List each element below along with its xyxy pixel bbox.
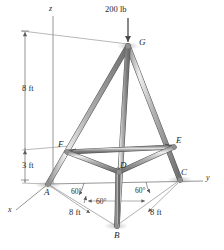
dimension-label-base-right: 8 ft [150, 208, 162, 217]
y-axis-label: y [206, 174, 210, 182]
load-label: 200 lb [105, 5, 127, 14]
dimension-label-height-upper: 8 ft [22, 84, 34, 93]
joint-label-C: C [181, 168, 187, 177]
dimension-label-base-left: 8 ft [69, 208, 81, 217]
figure-canvas: 200 lb z y x G F E D A C B 8 ft 3 ft 8 f… [0, 0, 224, 250]
joint-label-D: D [120, 161, 127, 170]
member-FD [67, 152, 119, 172]
angle-label-left: 60° [71, 188, 82, 196]
joint-label-G: G [139, 38, 146, 47]
member-DB [117, 170, 118, 226]
joint-label-E: E [176, 136, 182, 145]
joint-label-F: F [58, 140, 64, 149]
joint-label-B: B [114, 231, 120, 240]
z-axis-label: z [49, 5, 52, 13]
base-triangle-outline [48, 180, 180, 226]
joint-label-A: A [44, 188, 50, 197]
member-GA [48, 46, 128, 184]
angle-label-base: 60° [96, 198, 107, 206]
vertical-dimension-lines [21, 31, 128, 184]
truss-diagram [0, 0, 224, 250]
x-axis-label: x [8, 206, 12, 214]
angle-label-right: 60° [135, 187, 146, 195]
member-GC [128, 46, 180, 180]
dimension-label-height-lower: 3 ft [22, 161, 34, 170]
